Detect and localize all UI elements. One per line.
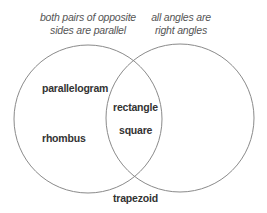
left-set-circle xyxy=(14,45,162,193)
trapezoid-label: trapezoid xyxy=(113,192,158,204)
square-label: square xyxy=(119,124,152,136)
right-set-caption: all angles are right angles xyxy=(141,11,221,37)
left-caption-line-2: sides are parallel xyxy=(38,24,138,37)
left-caption-line-1: both pairs of opposite xyxy=(38,11,138,24)
right-set-circle xyxy=(106,44,254,192)
rhombus-label: rhombus xyxy=(42,132,86,144)
right-caption-line-1: all angles are xyxy=(141,11,221,24)
parallelogram-label: parallelogram xyxy=(42,82,108,94)
left-set-caption: both pairs of opposite sides are paralle… xyxy=(38,11,138,37)
venn-diagram: both pairs of opposite sides are paralle… xyxy=(0,0,267,213)
right-caption-line-2: right angles xyxy=(141,24,221,37)
rectangle-label: rectangle xyxy=(113,101,158,113)
